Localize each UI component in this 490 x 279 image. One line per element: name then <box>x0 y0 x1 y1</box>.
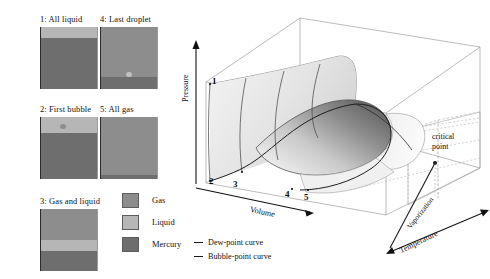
pressure-axis <box>193 40 200 184</box>
tube-band-gas <box>101 27 157 77</box>
swatch-mercury-icon <box>122 237 139 252</box>
tube-caption-4: 4: Last droplet <box>100 14 158 24</box>
state-point-label-1: 1 <box>212 76 217 86</box>
tube-band-liquid <box>41 240 97 251</box>
tube-band-mercury <box>41 38 97 89</box>
tube-band-gas <box>101 117 157 175</box>
tube-band-mercury <box>41 251 97 271</box>
critical-point-line-1: critical <box>432 132 454 142</box>
tube-band-mercury <box>41 133 97 179</box>
tube-body-5 <box>100 117 158 179</box>
legend-label-mercury: Mercury <box>152 239 181 249</box>
tube-band-liquid <box>41 27 97 38</box>
swatch-liquid-icon <box>122 215 139 230</box>
legend-item-gas: Gas <box>122 189 181 211</box>
tube-body-4 <box>100 27 158 89</box>
legend-item-liquid: Liquid <box>122 211 181 233</box>
pressure-axis-arrow-icon <box>193 40 200 49</box>
tube-body-1 <box>40 27 98 89</box>
tube-illustration-4: 4: Last droplet <box>100 14 158 89</box>
legend-label-gas: Gas <box>152 195 165 205</box>
state-point-label-4: 4 <box>285 189 290 199</box>
state-point-label-2: 2 <box>209 176 214 186</box>
state-point-label-5: 5 <box>304 192 309 202</box>
critical-point-line-2: point <box>432 142 454 152</box>
legend-item-mercury: Mercury <box>122 233 181 255</box>
tube-band-liquid <box>41 117 97 133</box>
droplet-marker-icon <box>126 72 132 77</box>
pvt-surface-figure: 1: All liquid 2: First bubble 3: Gas and… <box>0 0 490 279</box>
tube-caption-1: 1: All liquid <box>40 14 98 24</box>
tube-illustration-5: 5: All gas <box>100 104 158 179</box>
volume-axis-arrow-icon <box>305 210 314 217</box>
material-legend: Gas Liquid Mercury <box>122 189 181 255</box>
legend-label-liquid: Liquid <box>152 217 175 227</box>
tube-band-mercury <box>101 175 157 179</box>
annotation-critical-point: critical point <box>432 132 454 152</box>
swatch-gas-icon <box>122 193 139 208</box>
tube-illustration-1: 1: All liquid <box>40 14 98 89</box>
tube-caption-2: 2: First bubble <box>40 104 98 114</box>
tube-band-mercury <box>101 77 157 89</box>
state-point-label-3: 3 <box>233 179 238 189</box>
tube-body-2 <box>40 117 98 179</box>
tube-illustration-3: 3: Gas and liquid <box>40 196 100 271</box>
bubble-marker-icon <box>60 124 66 129</box>
tube-body-3 <box>40 209 98 271</box>
tube-band-gas <box>41 209 97 240</box>
tube-caption-3: 3: Gas and liquid <box>40 196 100 206</box>
axis-label-pressure: Pressure <box>181 74 190 102</box>
tube-illustration-2: 2: First bubble <box>40 104 98 179</box>
tube-caption-5: 5: All gas <box>100 104 158 114</box>
